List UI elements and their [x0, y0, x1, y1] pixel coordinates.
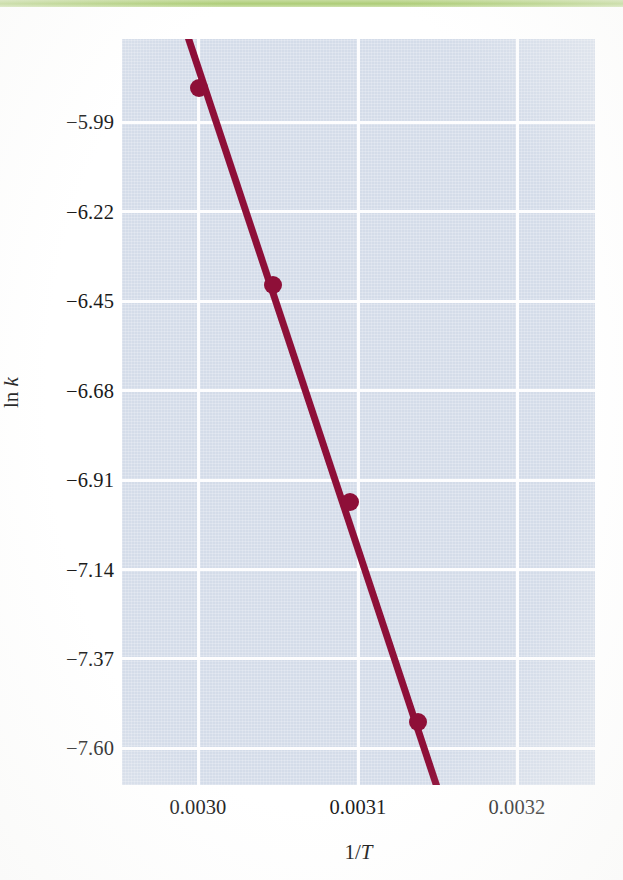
x-tick-label: 0.0032	[447, 797, 587, 818]
data-point	[341, 493, 359, 511]
data-point	[190, 79, 208, 97]
y-axis-label: ln k	[0, 377, 24, 408]
y-tick-label: −6.45	[22, 291, 114, 312]
y-axis-label-prefix: ln	[0, 386, 23, 408]
best-fit-line-group	[187, 39, 438, 785]
plot-panel	[122, 39, 595, 785]
x-axis-label: 1/T	[122, 840, 595, 865]
x-axis-label-variable: T	[361, 840, 373, 864]
y-axis-label-variable: k	[0, 377, 23, 386]
data-point	[409, 713, 427, 731]
x-axis-tick-labels: 0.0030 0.0031 0.0032	[122, 797, 595, 827]
y-tick-label: −5.99	[22, 112, 114, 133]
x-tick-label: 0.0030	[128, 797, 268, 818]
x-axis-label-prefix: 1/	[344, 840, 360, 864]
y-axis-tick-labels: −5.99 −6.22 −6.45 −6.68 −6.91 −7.14 −7.3…	[18, 39, 114, 785]
y-tick-label: −7.37	[22, 649, 114, 670]
y-tick-label: −6.68	[22, 381, 114, 402]
y-tick-label: −6.22	[22, 202, 114, 223]
data-point	[264, 276, 282, 294]
arrhenius-plot-figure: −5.99 −6.22 −6.45 −6.68 −6.91 −7.14 −7.3…	[0, 0, 623, 880]
y-tick-label: −6.91	[22, 470, 114, 491]
y-tick-label: −7.60	[22, 738, 114, 759]
decorative-top-band	[0, 0, 623, 7]
top-band-gradient	[0, 0, 623, 7]
data-layer	[122, 39, 595, 785]
best-fit-line	[187, 39, 438, 785]
y-tick-label: −7.14	[22, 560, 114, 581]
x-tick-label: 0.0031	[288, 797, 428, 818]
